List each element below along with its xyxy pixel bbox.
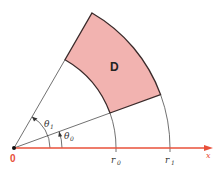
svg-text:0: 0 xyxy=(70,135,74,142)
svg-text:1: 1 xyxy=(171,159,175,166)
svg-text:0: 0 xyxy=(117,159,121,166)
svg-text:1: 1 xyxy=(50,123,54,130)
r1-label: r 1 xyxy=(165,155,175,166)
arc-r0 xyxy=(110,113,116,148)
ray-theta1 xyxy=(14,60,65,148)
origin-point xyxy=(12,146,16,150)
svg-text:r: r xyxy=(165,155,170,165)
arc-r1 xyxy=(161,95,170,148)
svg-text:r: r xyxy=(111,155,116,165)
theta0-label: θ 0 xyxy=(64,131,74,142)
r0-label: r 0 xyxy=(111,155,121,166)
x-axis-label: x xyxy=(206,151,211,160)
arrowhead-theta1 xyxy=(32,117,38,122)
origin-label: 0 xyxy=(10,153,16,164)
region-label: D xyxy=(110,60,119,74)
theta1-label: θ 1 xyxy=(44,119,54,130)
polar-region-diagram: D 0 x r 0 r 1 θ 1 θ 0 xyxy=(0,0,222,176)
arrowhead-theta0 xyxy=(58,132,62,137)
